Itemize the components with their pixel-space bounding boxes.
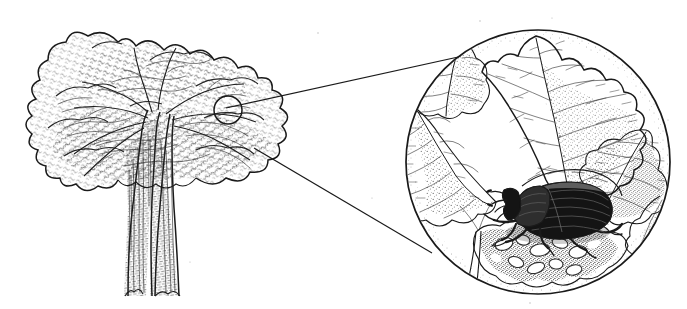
illustration-canvas: Tree with magnified detail of beetle fee… <box>0 0 687 309</box>
illustration-figure: Tree with magnified detail of beetle fee… <box>0 0 687 309</box>
